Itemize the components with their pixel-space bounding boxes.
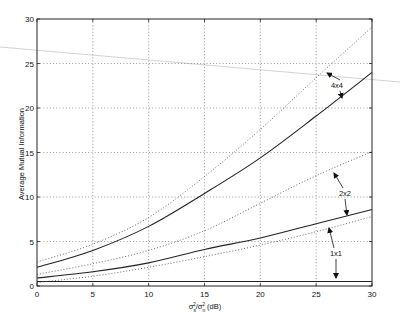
x-tick-label: 0 xyxy=(35,290,40,299)
y-tick-label: 5 xyxy=(30,238,35,247)
x-tick-label: 25 xyxy=(312,290,321,299)
x-tick-label: 20 xyxy=(256,290,265,299)
y-tick-label: 30 xyxy=(25,15,34,24)
annotations: 4x42x21x1 xyxy=(327,73,351,278)
annotation-arrow-icon xyxy=(329,228,334,248)
scan-artifact-line xyxy=(0,47,400,82)
plot-frame xyxy=(37,19,372,286)
x-tick-label: 5 xyxy=(91,290,96,299)
annotation-arrow-icon xyxy=(334,173,343,188)
y-tick-label: 20 xyxy=(25,104,34,113)
axis-ticks: 051015202530051015202530 xyxy=(25,15,377,299)
grid-lines xyxy=(37,19,372,286)
x-tick-label: 30 xyxy=(368,290,377,299)
annotation-arrow-icon xyxy=(345,199,347,215)
annotation-label-1x1: 1x1 xyxy=(330,249,342,258)
y-axis-label: Average Mutual Information xyxy=(17,108,26,200)
y-tick-label: 15 xyxy=(25,149,34,158)
x-tick-label: 10 xyxy=(144,290,153,299)
x-tick-label: 15 xyxy=(200,290,209,299)
y-tick-label: 0 xyxy=(30,282,35,291)
y-tick-label: 25 xyxy=(25,60,34,69)
annotation-label-4x4: 4x4 xyxy=(331,81,343,90)
data-series xyxy=(37,27,372,282)
y-tick-label: 10 xyxy=(25,193,34,202)
x-label-unit: (dB) xyxy=(205,302,222,311)
annotation-label-2x2: 2x2 xyxy=(339,189,351,198)
mutual-information-chart: 051015202530051015202530 4x42x21x1 Avera… xyxy=(0,0,400,324)
x-axis-label: σs2/σn2 (dB) xyxy=(189,301,222,313)
